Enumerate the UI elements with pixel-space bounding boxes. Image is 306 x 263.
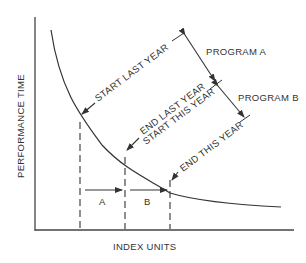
program-a-label: PROGRAM A (206, 46, 267, 57)
end-last-year-pointer (127, 138, 139, 150)
end-this-year-leader (240, 115, 250, 122)
interval-a-label: A (99, 196, 106, 207)
end-this-year-pointer (172, 172, 178, 180)
start-last-year-label: START LAST YEAR (93, 41, 171, 103)
start-last-year-leader (172, 33, 184, 41)
program-b-label: PROGRAM B (238, 92, 299, 103)
y-axis-label: PERFORMANCE TIME (15, 74, 26, 178)
x-axis-label: INDEX UNITS (113, 241, 176, 252)
end-last-year-leader (210, 80, 222, 89)
start-last-year-pointer (82, 103, 95, 114)
program-a-arrow (185, 35, 215, 81)
interval-b-label: B (144, 196, 151, 207)
learning-curve-diagram: A B START LAST YEAR END LAST YEAR START … (0, 0, 306, 263)
end-this-year-label: END THIS YEAR (178, 119, 246, 174)
